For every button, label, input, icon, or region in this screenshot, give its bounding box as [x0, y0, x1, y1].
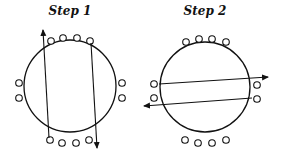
small-circle [59, 140, 66, 147]
small-circle [195, 140, 202, 147]
arrow-line [144, 98, 252, 106]
small-circle [47, 137, 54, 144]
step-2-panel [144, 36, 268, 147]
small-circle [196, 36, 203, 43]
small-circle [254, 82, 261, 89]
arrow-line [91, 43, 97, 148]
small-circle [223, 137, 230, 144]
small-circle [183, 39, 190, 46]
small-circle [151, 95, 158, 102]
step-1-panel [16, 30, 126, 148]
small-circle [87, 38, 94, 45]
small-circle [151, 81, 158, 88]
small-circle [254, 96, 261, 103]
large-circle [160, 42, 250, 132]
small-circle [209, 36, 216, 43]
small-circle [16, 95, 23, 102]
small-circle [48, 38, 55, 45]
step-diagram [0, 0, 282, 156]
large-circle [24, 40, 116, 132]
small-circle [74, 35, 81, 42]
small-circle [119, 95, 126, 102]
arrow-line [159, 77, 268, 84]
small-circle [73, 140, 80, 147]
small-circle [86, 137, 93, 144]
small-circle [223, 39, 230, 46]
small-circle [60, 35, 67, 42]
small-circle [209, 140, 216, 147]
small-circle [182, 137, 189, 144]
small-circle [119, 80, 126, 87]
small-circle [16, 80, 23, 87]
